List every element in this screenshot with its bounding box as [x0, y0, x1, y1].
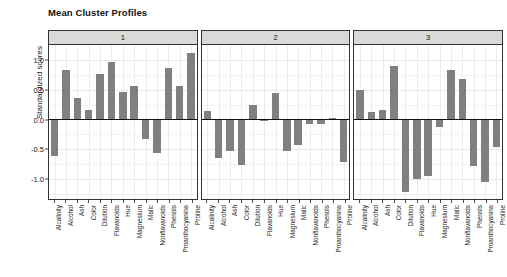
y-tick-label: 0.0	[34, 115, 44, 124]
facet-panel: 2	[201, 30, 351, 200]
bar	[493, 120, 500, 147]
bar	[119, 92, 126, 120]
x-tick-mark	[428, 200, 429, 203]
bar	[176, 86, 183, 120]
x-tick-label: Phenols	[477, 205, 483, 228]
chart-title: Mean Cluster Profiles	[48, 7, 147, 18]
facet-panels: 123	[48, 30, 503, 200]
x-axis-group: AlcalinityAlcoholAshColorDilutionFlavano…	[353, 200, 503, 277]
x-tick-label: Ash	[385, 205, 391, 216]
chart-container: Mean Cluster Profiles Standardized score…	[0, 0, 507, 277]
facet-strip-label: 3	[353, 30, 503, 45]
x-tick-mark	[146, 200, 147, 203]
bars-layer	[49, 45, 197, 199]
bar	[130, 86, 137, 120]
x-tick-label: Malic	[454, 205, 460, 220]
x-tick-label: Hue	[278, 205, 284, 217]
x-tick-label: Dilution	[255, 205, 261, 226]
x-tick-mark	[180, 200, 181, 203]
x-tick-mark	[111, 200, 112, 203]
x-tick-label: Alcalinity	[362, 205, 368, 230]
x-tick-mark	[123, 200, 124, 203]
x-tick-label: Nonflavanoids	[465, 205, 471, 246]
plot-area	[48, 45, 198, 200]
bar	[470, 120, 477, 167]
x-tick-mark	[394, 200, 395, 203]
x-tick-mark	[299, 200, 300, 203]
x-tick-label: Hue	[431, 205, 437, 217]
bar	[459, 79, 466, 120]
bar	[424, 120, 431, 177]
zero-reference-line	[49, 119, 197, 121]
x-tick-label: Flavanoids	[267, 205, 273, 236]
x-tick-mark	[310, 200, 311, 203]
bar	[62, 70, 69, 119]
facet-panel: 1	[48, 30, 198, 200]
x-tick-mark	[474, 200, 475, 203]
x-tick-mark	[206, 200, 207, 203]
y-tick-label: -1.0	[31, 175, 44, 184]
bar	[142, 120, 149, 139]
x-tick-label: Color	[91, 205, 97, 220]
x-tick-label: Dilution	[408, 205, 414, 226]
bar	[165, 68, 172, 120]
bar	[294, 120, 301, 145]
x-tick-mark	[241, 200, 242, 203]
x-tick-mark	[371, 200, 372, 203]
bar	[402, 120, 409, 193]
x-tick-label: Alcohol	[221, 205, 227, 226]
x-tick-mark	[405, 200, 406, 203]
x-tick-mark	[382, 200, 383, 203]
x-tick-label: Dilution	[102, 205, 108, 226]
x-tick-mark	[463, 200, 464, 203]
x-tick-mark	[333, 200, 334, 203]
x-tick-mark	[451, 200, 452, 203]
facet-strip-label: 1	[48, 30, 198, 45]
y-tick-label: 0.5	[34, 85, 44, 94]
x-tick-mark	[486, 200, 487, 203]
y-tick-label: -0.5	[31, 145, 44, 154]
bar	[413, 120, 420, 180]
x-tick-mark	[134, 200, 135, 203]
bar	[238, 120, 245, 166]
plot-area	[353, 45, 503, 200]
x-tick-mark	[417, 200, 418, 203]
x-tick-label: Proanthocyanins	[336, 205, 342, 253]
zero-reference-line	[202, 119, 350, 121]
x-tick-label: Nonflavanoids	[313, 205, 319, 246]
x-tick-label: Flavanoids	[419, 205, 425, 236]
x-tick-label: Alcalinity	[56, 205, 62, 230]
x-tick-mark	[276, 200, 277, 203]
bar	[356, 90, 363, 120]
x-tick-label: Nonflavanoids	[160, 205, 166, 246]
x-tick-mark	[192, 200, 193, 203]
bar	[340, 120, 347, 163]
bar	[74, 98, 81, 119]
x-tick-mark	[218, 200, 219, 203]
x-tick-mark	[322, 200, 323, 203]
y-tick-label: 1.0	[34, 55, 44, 64]
x-tick-mark	[345, 200, 346, 203]
x-tick-label: Hue	[125, 205, 131, 217]
bar	[226, 120, 233, 152]
bar	[153, 120, 160, 154]
x-tick-label: Alcohol	[373, 205, 379, 226]
x-tick-mark	[169, 200, 170, 203]
x-tick-label: Color	[396, 205, 402, 220]
zero-reference-line	[354, 119, 502, 121]
bar	[187, 53, 194, 119]
x-tick-label: Proline	[500, 205, 506, 225]
x-tick-mark	[287, 200, 288, 203]
x-tick-mark	[229, 200, 230, 203]
x-tick-label: Flavanoids	[114, 205, 120, 236]
x-tick-label: Magnesium	[137, 205, 143, 238]
x-tick-mark	[65, 200, 66, 203]
x-tick-label: Magnesium	[290, 205, 296, 238]
bar	[215, 120, 222, 159]
bar	[249, 105, 256, 120]
x-tick-label: Phenols	[171, 205, 177, 228]
x-tick-mark	[157, 200, 158, 203]
x-tick-mark	[252, 200, 253, 203]
x-tick-label: Alcohol	[68, 205, 74, 226]
bars-layer	[202, 45, 350, 199]
